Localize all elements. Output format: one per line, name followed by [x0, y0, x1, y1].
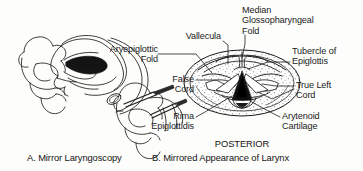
label-rima-epiglottidis: Rima Epiglottidis	[120, 111, 194, 132]
label-tubercle-of-epiglottis: Tubercle of Epiglottis	[292, 46, 363, 67]
label-true-left-cord: True Left Cord	[296, 80, 362, 101]
caption-panel-b: B. Mirrored Appearance of Larynx	[152, 152, 289, 163]
orientation-label-posterior: POSTERIOR	[192, 138, 292, 149]
label-arytenoid-cartilage: Arytenoid Cartilage	[282, 111, 358, 132]
label-false-cord: False Cord	[140, 74, 194, 95]
label-vallecula: Vallecula	[153, 31, 221, 41]
label-aryepiglottic-fold: Aryepiglottic Fold	[62, 44, 158, 65]
laryngoscopy-figure: Aryepiglottic Fold Vallecula Median Glos…	[0, 0, 363, 171]
label-median-glossopharyngeal-fold: Median Glossopharyngeal Fold	[242, 5, 354, 36]
caption-panel-a: A. Mirror Laryngoscopy	[27, 152, 122, 163]
